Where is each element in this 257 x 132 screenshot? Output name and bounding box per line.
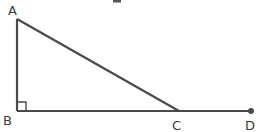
point-d-dot-icon (248, 108, 254, 114)
label-a: A (8, 3, 17, 18)
triangle-diagram: A B C D (0, 0, 257, 132)
label-c: C (172, 118, 181, 132)
label-d: D (245, 118, 255, 132)
right-angle-marker-icon (17, 102, 26, 111)
clipped-text-fragment (113, 0, 121, 3)
label-b: B (3, 113, 12, 128)
segment-ac (17, 19, 179, 111)
